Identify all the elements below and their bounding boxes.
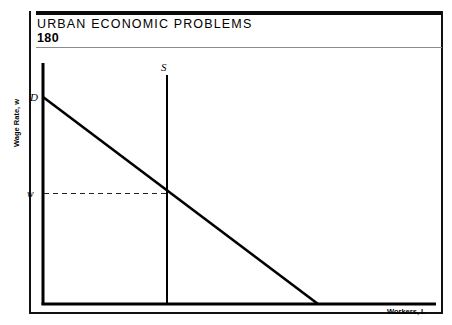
header-rule-thick [36, 11, 442, 15]
y-axis-title: Wage Rate, w [12, 99, 21, 147]
running-head-title: URBAN ECONOMIC PROBLEMS [37, 17, 252, 31]
x-axis-title: Workers, L [387, 307, 426, 316]
page-number: 180 [37, 31, 59, 45]
textbook-page: URBAN ECONOMIC PROBLEMS 180 D S w Wage R… [0, 0, 452, 325]
demand-curve-label: D [29, 91, 38, 103]
supply-curve-label: S [161, 61, 167, 73]
figure-labor-market-diagram: D S w Wage Rate, w Workers, L [0, 55, 452, 320]
chart-svg: D S w Wage Rate, w Workers, L [0, 55, 452, 320]
demand-curve [43, 97, 318, 304]
wage-tick-label: w [27, 188, 34, 199]
header-rule-thin [36, 47, 442, 48]
